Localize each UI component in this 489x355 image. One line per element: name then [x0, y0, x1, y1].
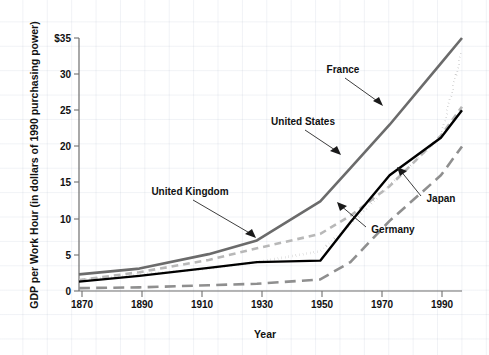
chart-svg: $35 30 25 20 15 10 5 0 1870 1890 1910 19… — [0, 0, 489, 355]
x-tick-label: 1990 — [431, 299, 454, 310]
series-label-france: France — [327, 64, 360, 75]
leader-line-japan — [400, 170, 421, 196]
series-label-united-kingdom: United Kingdom — [151, 186, 228, 197]
gdp-per-work-hour-chart: $35 30 25 20 15 10 5 0 1870 1890 1910 19… — [0, 0, 489, 355]
y-axis-title: GDP per Work Hour (in dollars of 1990 pu… — [28, 21, 40, 308]
y-tick-label: 15 — [60, 177, 72, 188]
x-axis-title: Year — [254, 328, 276, 340]
series-lines — [79, 38, 462, 288]
x-tick-label: 1950 — [311, 299, 334, 310]
y-tick-label: 10 — [60, 214, 72, 225]
series-line-germany — [79, 110, 462, 281]
y-tick-label: $35 — [54, 33, 71, 44]
y-tick-label: 5 — [65, 250, 71, 261]
series-line-united-kingdom — [79, 107, 462, 280]
y-tick-label: 25 — [60, 105, 72, 116]
x-tick-label: 1890 — [131, 299, 154, 310]
x-tick-label: 1930 — [251, 299, 274, 310]
annotation-labels: France United States United Kingdom Germ… — [151, 64, 455, 235]
x-tick-label: 1910 — [191, 299, 214, 310]
y-tick-label: 20 — [60, 141, 72, 152]
y-axis-tick-labels: $35 30 25 20 15 10 5 0 — [54, 33, 71, 297]
leader-line-united-states — [305, 130, 338, 152]
series-label-united-states: United States — [271, 116, 335, 127]
series-line-france — [79, 38, 462, 274]
y-axis-ticks — [74, 38, 79, 291]
x-tick-label: 1970 — [371, 299, 394, 310]
leader-line-united-kingdom — [193, 200, 253, 235]
y-tick-label: 0 — [65, 286, 71, 297]
series-label-germany: Germany — [371, 224, 415, 235]
x-axis-tick-labels: 1870 1890 1910 1930 1950 1970 1990 — [71, 299, 454, 310]
x-tick-label: 1870 — [71, 299, 94, 310]
leader-line-france — [345, 78, 380, 103]
annotation-leaders — [193, 78, 421, 235]
series-line-japan — [79, 146, 462, 288]
y-tick-label: 30 — [60, 69, 72, 80]
series-label-japan: Japan — [427, 193, 456, 204]
x-axis-ticks — [82, 291, 442, 297]
